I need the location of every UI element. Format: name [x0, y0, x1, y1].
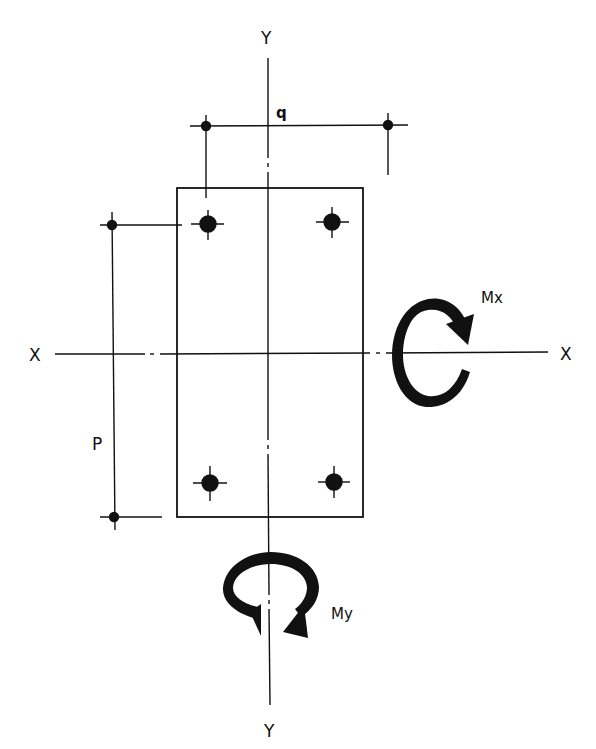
- p-dimension-label: P: [92, 434, 102, 454]
- y-axis: [268, 58, 270, 705]
- p-dimension: [100, 212, 182, 530]
- x-axis-left-label: X: [29, 345, 41, 365]
- bolt-bottom-right: [318, 466, 350, 498]
- mx-moment-label: Mx: [481, 289, 503, 307]
- bolt-bottom-left: [193, 466, 227, 501]
- base-plate-diagram: Y Y X X q P Mx My: [0, 0, 596, 749]
- my-moment-arrow-icon: [223, 552, 319, 638]
- y-axis-top-label: Y: [260, 28, 272, 48]
- q-dimension-label: q: [276, 104, 287, 122]
- bolt-top-right: [316, 207, 349, 238]
- bolt-top-left: [191, 210, 224, 240]
- y-axis-bottom-label: Y: [263, 721, 275, 741]
- x-axis: [55, 352, 548, 354]
- my-moment-label: My: [331, 605, 353, 623]
- q-dimension: [190, 113, 408, 198]
- x-axis-right-label: X: [560, 344, 572, 364]
